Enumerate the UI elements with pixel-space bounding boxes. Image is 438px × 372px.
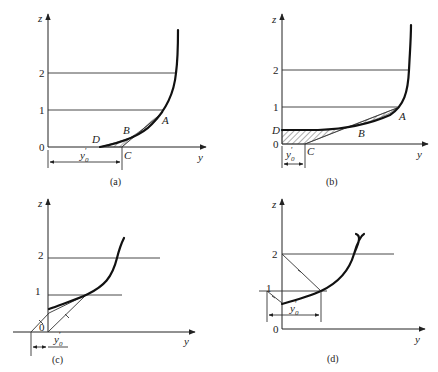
tick-0: 0 bbox=[39, 141, 45, 153]
point-label-a: A bbox=[161, 114, 169, 126]
tick-2: 2 bbox=[272, 248, 278, 260]
panel-d: z y 0 1 2 y0′ (d) bbox=[259, 198, 425, 365]
caption-c: (c) bbox=[52, 354, 63, 366]
construction-line-upper bbox=[282, 254, 321, 291]
profile-curve bbox=[282, 234, 364, 304]
z-axis-label: z bbox=[37, 12, 43, 24]
tick-0: 0 bbox=[273, 138, 279, 150]
y-axis-label: y bbox=[416, 148, 422, 160]
point-label-c: C bbox=[307, 145, 315, 157]
point-label-d: D bbox=[91, 133, 100, 145]
tick-2: 2 bbox=[38, 249, 44, 261]
point-label-b: B bbox=[358, 127, 365, 139]
point-label-d: D bbox=[271, 124, 280, 136]
z-axis-label: z bbox=[37, 197, 43, 209]
y-axis-label: y bbox=[414, 333, 420, 345]
tick-1: 1 bbox=[273, 101, 279, 113]
point-label-a: A bbox=[398, 110, 406, 122]
z-axis-label: z bbox=[271, 198, 277, 210]
dimension-label: y0′ bbox=[53, 331, 63, 348]
construction-line-origin bbox=[48, 295, 86, 332]
tick-2: 2 bbox=[273, 64, 279, 76]
equal-tick-mark bbox=[65, 314, 69, 318]
caption-a: (a) bbox=[110, 176, 121, 188]
panel-b: z y 0 1 2 D B A C y0′ (b) bbox=[271, 13, 428, 188]
panel-a: z y 0 1 2 D B A C y0′ (a) bbox=[37, 12, 206, 188]
tick-1: 1 bbox=[39, 104, 45, 116]
panel-c: z y 0 1 2 y0′ (c) bbox=[13, 197, 195, 366]
caption-d: (d) bbox=[327, 353, 339, 365]
profile-curve bbox=[49, 238, 124, 309]
y-axis-label: y bbox=[183, 335, 189, 347]
figure: z y 0 1 2 D B A C y0′ (a) z y 0 1 2 bbox=[0, 0, 438, 372]
caption-b: (b) bbox=[326, 176, 338, 188]
y-axis-label: y bbox=[197, 151, 203, 163]
tick-1: 1 bbox=[35, 285, 41, 297]
tick-0: 0 bbox=[273, 323, 279, 335]
construction-line-lower bbox=[267, 291, 282, 303]
z-axis-label: z bbox=[271, 13, 277, 25]
dimension-label: y0′ bbox=[285, 146, 295, 163]
profile-curve bbox=[100, 30, 178, 147]
point-label-b: B bbox=[123, 124, 130, 136]
tick-2: 2 bbox=[39, 67, 45, 79]
point-label-c: C bbox=[124, 149, 132, 161]
dimension-label: y0′ bbox=[79, 147, 89, 164]
profile-curve bbox=[282, 25, 411, 130]
dimension-label: y0′ bbox=[289, 300, 299, 317]
